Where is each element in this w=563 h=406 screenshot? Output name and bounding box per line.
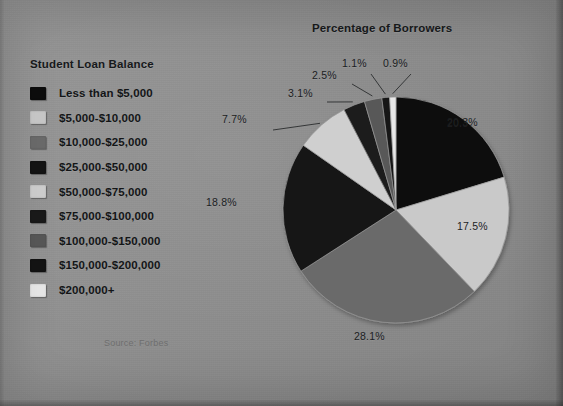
- legend-item-label: $5,000-$10,000: [59, 112, 141, 124]
- pie-slices: [283, 97, 509, 323]
- legend-item-label: $150,000-$200,000: [59, 259, 160, 271]
- legend-swatch: [30, 185, 46, 198]
- legend-item-5000-10000: $5,000-$10,000: [30, 106, 240, 131]
- legend-item-label: Less than $5,000: [59, 87, 153, 99]
- slice-label-2-5: 2.5%: [312, 69, 337, 81]
- legend-swatch: [30, 210, 46, 223]
- legend-title: Student Loan Balance: [30, 58, 240, 70]
- slice-label-0-9: 0.9%: [383, 57, 408, 69]
- page-edge-right: [556, 0, 563, 406]
- slice-label-1-1: 1.1%: [342, 57, 367, 69]
- legend-item-label: $200,000+: [59, 284, 115, 296]
- legend-item-200000-plus: $200,000+: [30, 278, 240, 303]
- legend-item-10000-25000: $10,000-$25,000: [30, 130, 240, 155]
- legend-item-label: $50,000-$75,000: [59, 186, 147, 198]
- pie-chart-svg: [249, 62, 549, 352]
- page-edge-left: [0, 0, 4, 406]
- legend-swatch: [30, 284, 46, 297]
- legend-swatch: [30, 136, 46, 149]
- leader-line: [352, 84, 372, 96]
- legend-item-label: $25,000-$50,000: [59, 161, 147, 173]
- chart-title: Percentage of Borrowers: [312, 22, 452, 34]
- legend-swatch: [30, 234, 46, 247]
- legend-item-label: $10,000-$25,000: [59, 136, 147, 148]
- legend-item-label: $75,000-$100,000: [59, 210, 154, 222]
- legend-item-150000-200000: $150,000-$200,000: [30, 253, 240, 278]
- legend-swatch: [30, 259, 46, 272]
- slice-label-17-5: 17.5%: [457, 220, 488, 232]
- slice-label-28-1: 28.1%: [354, 330, 385, 342]
- slice-label-7-7: 7.7%: [222, 113, 247, 125]
- page-edge-bottom: [0, 400, 563, 406]
- legend: Student Loan Balance Less than $5,000 $5…: [30, 58, 240, 302]
- legend-swatch: [30, 87, 46, 100]
- slice-label-20-3: 20.3%: [447, 116, 478, 128]
- leader-line: [393, 74, 411, 94]
- legend-swatch: [30, 111, 46, 124]
- pie-chart: 20.3% 17.5% 28.1% 18.8% 7.7% 3.1% 2.5% 1…: [249, 62, 549, 352]
- slice-label-3-1: 3.1%: [288, 87, 313, 99]
- legend-item-less-than-5000: Less than $5,000: [30, 81, 240, 106]
- leader-line: [273, 123, 320, 130]
- legend-swatch: [30, 161, 46, 174]
- legend-item-100000-150000: $100,000-$150,000: [30, 229, 240, 254]
- legend-item-25000-50000: $25,000-$50,000: [30, 155, 240, 180]
- leader-line: [371, 74, 385, 94]
- source-note: Source: Forbes: [104, 338, 168, 348]
- slice-label-18-8: 18.8%: [206, 196, 237, 208]
- legend-item-label: $100,000-$150,000: [59, 235, 160, 247]
